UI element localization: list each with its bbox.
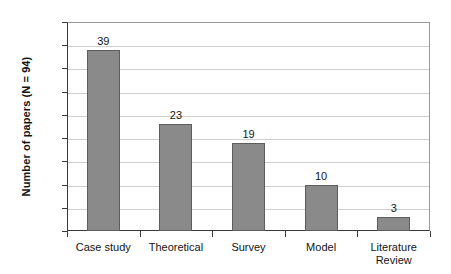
bar-value-label: 39 xyxy=(83,36,123,47)
x-axis-tick-mark xyxy=(140,231,141,237)
bars-layer xyxy=(67,22,430,231)
bar-value-label: 19 xyxy=(229,129,269,140)
bar-chart: Number of papers (N = 94) 45403530252015… xyxy=(0,0,451,274)
y-axis-title: Number of papers (N = 94) xyxy=(18,22,34,231)
bar[interactable] xyxy=(305,185,338,231)
x-axis-tick-mark xyxy=(285,231,286,237)
x-axis-tick-mark xyxy=(212,231,213,237)
x-axis-tick-mark xyxy=(357,231,358,237)
bar[interactable] xyxy=(377,217,410,231)
bar[interactable] xyxy=(87,50,120,231)
bar[interactable] xyxy=(232,143,265,231)
bar[interactable] xyxy=(159,124,192,231)
bar-value-label: 10 xyxy=(301,171,341,182)
x-axis-tick-mark xyxy=(67,231,68,237)
bar-value-label: 3 xyxy=(374,203,414,214)
x-axis-category-label-line: Review xyxy=(349,254,439,267)
x-axis-category-label: LiteratureReview xyxy=(349,241,439,267)
bar-value-label: 23 xyxy=(156,110,196,121)
x-axis-tick-mark xyxy=(430,231,431,237)
